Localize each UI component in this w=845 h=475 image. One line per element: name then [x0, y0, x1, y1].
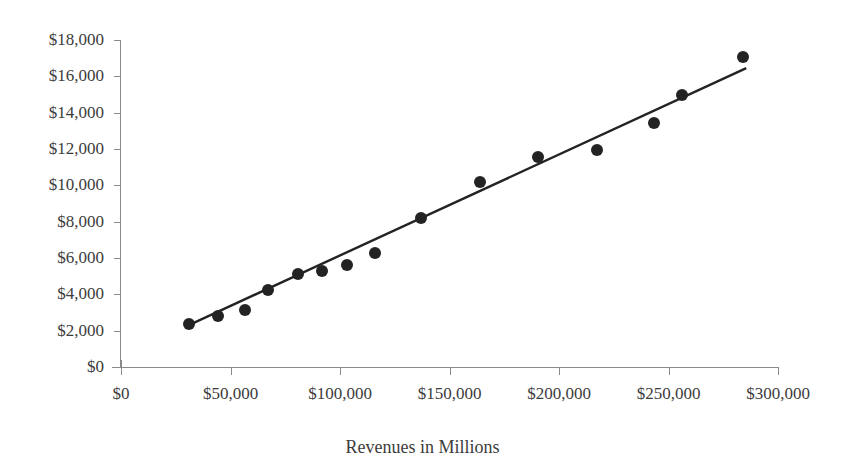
data-point — [532, 151, 544, 163]
y-tick-label: $0 — [8, 358, 104, 375]
data-point — [292, 268, 304, 280]
data-point — [212, 310, 224, 322]
trend-line-layer — [0, 0, 845, 475]
chart-title-remnant — [28, 0, 358, 4]
data-point — [591, 144, 603, 156]
x-tick-mark — [121, 360, 122, 375]
y-tick-label: $2,000 — [8, 322, 104, 339]
x-tick-label: $300,000 — [713, 385, 843, 403]
data-point — [415, 212, 427, 224]
y-tick-label: $10,000 — [8, 176, 104, 193]
y-axis-line — [120, 40, 121, 368]
y-tick-label: $4,000 — [8, 285, 104, 302]
data-point — [648, 117, 660, 129]
y-tick-label: $8,000 — [8, 213, 104, 230]
y-tick-label: $18,000 — [8, 31, 104, 48]
x-tick-mark — [669, 368, 670, 375]
x-tick-mark — [559, 368, 560, 375]
y-tick-mark — [114, 76, 121, 77]
y-tick-mark — [112, 367, 121, 368]
y-tick-label: $14,000 — [8, 104, 104, 121]
scatter-chart-figure: $0$2,000$4,000$6,000$8,000$10,000$12,000… — [0, 0, 845, 475]
y-tick-label: $12,000 — [8, 140, 104, 157]
x-axis-title: Revenues in Millions — [0, 437, 845, 458]
y-tick-mark — [114, 185, 121, 186]
data-point — [262, 284, 274, 296]
data-point — [369, 247, 381, 259]
y-tick-mark — [114, 40, 121, 41]
y-tick-label: $16,000 — [8, 67, 104, 84]
data-point — [676, 89, 688, 101]
x-tick-mark — [450, 368, 451, 375]
data-point — [474, 176, 486, 188]
y-tick-mark — [114, 113, 121, 114]
data-point — [341, 259, 353, 271]
y-tick-mark — [114, 331, 121, 332]
data-point — [737, 51, 749, 63]
y-tick-mark — [114, 149, 121, 150]
data-point — [316, 265, 328, 277]
y-tick-mark — [114, 294, 121, 295]
x-tick-mark — [340, 368, 341, 375]
data-point — [183, 318, 195, 330]
x-tick-mark — [778, 368, 779, 375]
y-tick-mark — [114, 222, 121, 223]
data-point — [239, 304, 251, 316]
x-tick-mark — [231, 368, 232, 375]
y-tick-mark — [114, 258, 121, 259]
y-tick-label: $6,000 — [8, 249, 104, 266]
